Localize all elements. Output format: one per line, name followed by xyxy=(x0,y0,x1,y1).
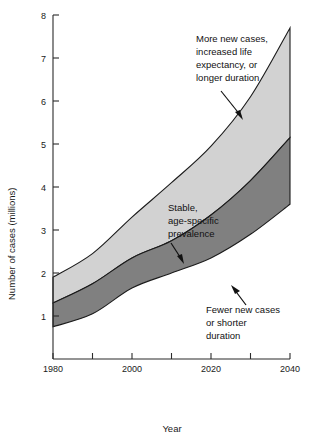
x-axis-title: Year xyxy=(162,423,181,434)
y-tick-label-2: 2 xyxy=(41,269,46,279)
y-axis-ticks xyxy=(53,15,59,316)
x-tick-label-2000: 2000 xyxy=(122,364,142,374)
annotation-lower-line1: Fewer new cases xyxy=(206,304,280,315)
y-tick-label-4: 4 xyxy=(41,183,46,193)
chart-container: 12345678 1980200020202040 Number of case… xyxy=(0,0,309,437)
annotation-lower-line2: or shorter xyxy=(206,317,247,328)
annotation-upper-line1: More new cases, xyxy=(196,33,268,44)
y-tick-label-3: 3 xyxy=(41,226,46,236)
x-tick-label-2040: 2040 xyxy=(280,364,300,374)
annotation-lower: Fewer new cases or shorter duration xyxy=(206,285,280,341)
annotation-upper-line2: increased life xyxy=(196,46,252,57)
annotation-lower-arrow-head xyxy=(231,285,240,294)
x-axis-ticks xyxy=(53,353,290,359)
area-chart-svg: 12345678 1980200020202040 Number of case… xyxy=(0,0,309,437)
x-tick-label-1980: 1980 xyxy=(43,364,63,374)
y-tick-label-1: 1 xyxy=(41,312,46,322)
x-axis-tick-labels: 1980200020202040 xyxy=(43,364,300,374)
y-tick-label-6: 6 xyxy=(41,97,46,107)
y-tick-label-8: 8 xyxy=(41,11,46,21)
annotation-upper-line3: expectancy, or xyxy=(196,59,257,70)
annotation-middle-line2: age-specific xyxy=(168,215,219,226)
annotation-middle-line3: prevalence xyxy=(168,228,214,239)
annotation-upper-line4: longer duration xyxy=(196,72,259,83)
annotation-middle-line1: Stable, xyxy=(168,202,198,213)
y-axis-title: Number of cases (millions) xyxy=(6,188,17,300)
annotation-lower-line3: duration xyxy=(206,330,240,341)
y-tick-label-7: 7 xyxy=(41,54,46,64)
y-axis-tick-labels: 12345678 xyxy=(41,11,46,322)
y-tick-label-5: 5 xyxy=(41,140,46,150)
x-tick-label-2020: 2020 xyxy=(201,364,221,374)
